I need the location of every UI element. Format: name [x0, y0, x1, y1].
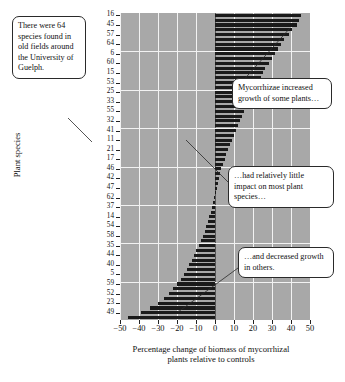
callout-species-count: There were 64 species found in old field…: [12, 16, 86, 79]
figure-root: 1645576466015532533553241112117464247623…: [0, 0, 345, 382]
callout-decreased-growth: …and decreased growth in others.: [238, 247, 334, 278]
callout-little-impact: …had relatively little impact on most pl…: [228, 166, 334, 208]
callout-increased-growth: Mycorrhizae increased growth of some pla…: [232, 78, 332, 109]
